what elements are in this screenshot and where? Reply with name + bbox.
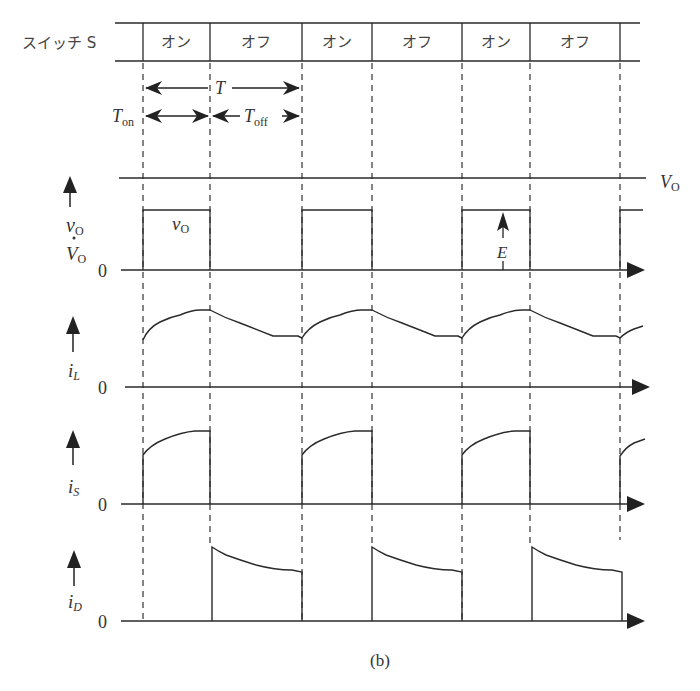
iD-time-axis-arrow-icon: [627, 613, 645, 629]
E-label: E: [496, 243, 508, 262]
iL-axis-arrow-icon: [66, 316, 80, 352]
switch-cell-on-3: オン: [481, 33, 511, 51]
ton-arrow: [145, 109, 209, 123]
timing-guide-lines: [143, 63, 620, 621]
vo-reference-label: VO: [660, 172, 680, 194]
switch-cell-on-2: オン: [322, 33, 352, 51]
switch-cell-on-1: オン: [161, 33, 191, 51]
iD-zero-label: 0: [98, 612, 107, 632]
iL-time-axis-arrow-icon: [632, 379, 650, 395]
iL-zero-label: 0: [98, 378, 107, 398]
iD-axis-label: iD: [68, 591, 82, 614]
iS-waveform: [143, 431, 645, 504]
toff-label: Toff: [244, 106, 268, 129]
period-T-label: T: [215, 78, 227, 98]
iS-zero-label: 0: [98, 495, 107, 515]
iD-axis-arrow-icon: [67, 550, 81, 586]
vo-waveform: [143, 210, 643, 270]
switch-cell-off-2: オフ: [402, 33, 432, 51]
vo-inside-label: vO: [172, 213, 189, 236]
iS-time-axis-arrow-icon: [627, 496, 645, 512]
vo-axis-label-Vo: VO: [66, 243, 87, 266]
vo-zero-label: 0: [98, 261, 107, 281]
iL-axis-label: iL: [68, 360, 80, 383]
iD-waveform: [212, 547, 622, 621]
vo-axis-label: vO: [66, 214, 84, 238]
vo-time-axis-arrow-icon: [627, 262, 645, 278]
switch-cell-off-1: オフ: [241, 33, 271, 51]
ton-label: Ton: [112, 106, 134, 129]
switch-row-label: スイッチ S: [22, 34, 96, 52]
vo-axis-arrow-icon: [63, 176, 77, 207]
iL-waveform: [143, 310, 643, 340]
iS-axis-label: iS: [68, 476, 79, 499]
iS-axis-arrow-icon: [66, 430, 80, 465]
figure-caption: (b): [370, 651, 390, 670]
boost-converter-waveform-diagram: スイッチ S オン オフ オン オフ オン オフ T Ton Toff: [0, 0, 700, 691]
switch-cell-off-3: オフ: [560, 33, 590, 51]
vo-axis-dot: [73, 237, 76, 240]
